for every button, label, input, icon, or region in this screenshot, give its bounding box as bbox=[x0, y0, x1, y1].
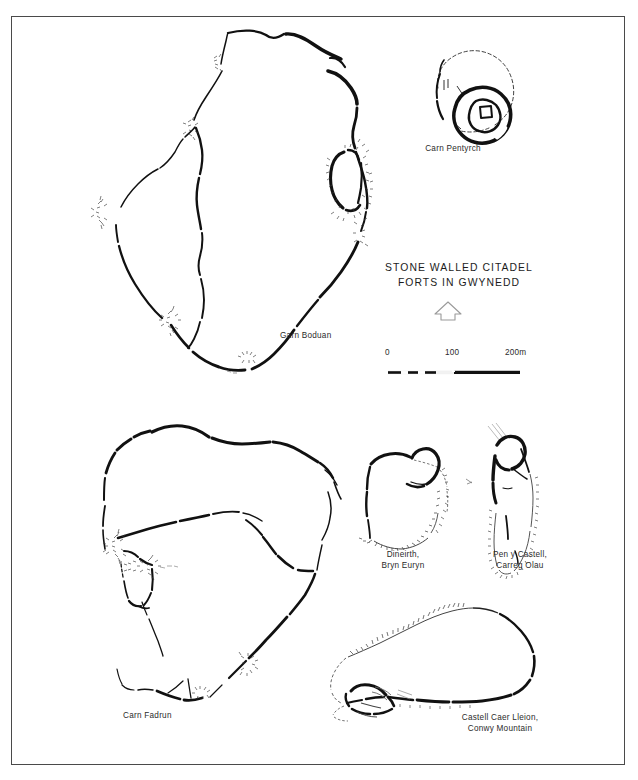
scale-label-0: 0 bbox=[385, 348, 390, 357]
map-title-line-2: FORTS IN GWYNEDD bbox=[383, 275, 535, 290]
scale-label-100: 100 bbox=[445, 348, 459, 357]
scale-bar-graphic bbox=[388, 361, 520, 366]
plan-label-garn-boduan: Garn Boduan bbox=[280, 330, 331, 341]
figure-root: Garn Boduan Carn Pentyrch Carn Fadrun Di… bbox=[0, 0, 638, 780]
plan-carn-pentyrch bbox=[437, 51, 514, 144]
north-arrow-icon bbox=[430, 300, 466, 324]
fort-plans-drawing bbox=[0, 0, 638, 780]
scale-label-200m: 200m bbox=[505, 348, 526, 357]
plan-label-dineirth-bryn-euryn: Dineirth, Bryn Euryn bbox=[355, 549, 451, 571]
plan-castell-caer-lleion-conwy-mountain bbox=[331, 603, 535, 721]
plan-label-carn-fadrun: Carn Fadrun bbox=[123, 710, 172, 721]
plan-carn-fadrun bbox=[103, 426, 341, 701]
map-title-line-1: STONE WALLED CITADEL bbox=[383, 260, 535, 275]
plan-label-carn-pentyrch: Carn Pentyrch bbox=[400, 143, 506, 154]
scale-bar: 0 100 200m bbox=[383, 348, 533, 372]
plan-garn-boduan bbox=[91, 31, 373, 373]
scale-bar-labels: 0 100 200m bbox=[383, 348, 533, 360]
plan-label-pen-y-castell-carreg-olau: Pen y Castell, Carreg Olau bbox=[466, 549, 574, 571]
plan-dineirth-bryn-euryn bbox=[359, 449, 449, 551]
map-title-block: STONE WALLED CITADEL FORTS IN GWYNEDD bbox=[383, 260, 535, 290]
plan-label-castell-caer-lleion: Castell Caer Lleion, Conwy Mountain bbox=[440, 712, 560, 734]
